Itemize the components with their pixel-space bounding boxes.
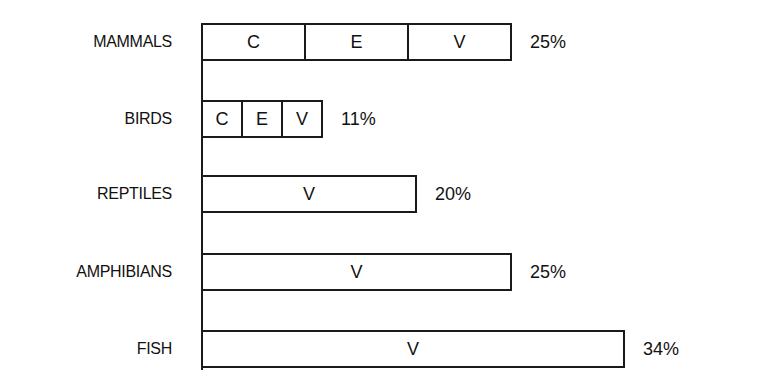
bar-segment: V [283,102,321,136]
bar-fish: V [201,330,625,368]
bar-segment: E [306,25,409,59]
bar-segment: V [409,25,510,59]
category-label: BIRDS [125,99,172,139]
bar-segment: V [203,255,510,289]
category-label: FISH [137,329,172,369]
value-label: 11% [341,99,376,139]
value-label: 25% [530,22,566,62]
value-label: 20% [435,174,471,214]
bar-segment: C [203,25,306,59]
category-label: REPTILES [97,174,172,214]
category-label: AMPHIBIANS [76,252,172,292]
bar-reptiles: V [201,175,417,213]
bar-segment: E [243,102,283,136]
value-label: 25% [530,252,566,292]
bar-segment: V [203,332,623,366]
category-label: MAMMALS [93,22,172,62]
bar-birds: CEV [201,100,323,138]
bar-amphibians: V [201,253,512,291]
bar-segment: C [203,102,243,136]
stacked-horizontal-bar-chart: MAMMALSCEV25%BIRDSCEV11%REPTILESV20%AMPH… [0,0,777,384]
bar-segment: V [203,177,415,211]
bar-mammals: CEV [201,23,512,61]
value-label: 34% [643,329,679,369]
